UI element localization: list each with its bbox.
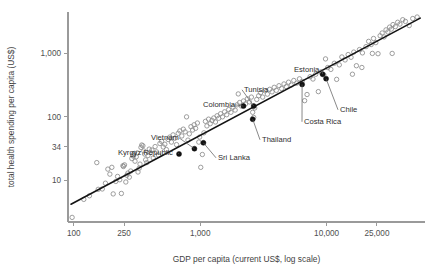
highlighted-point-vietnam	[192, 146, 197, 151]
annotation-label-costa-rica: Costa Rica	[304, 117, 342, 126]
data-point	[305, 92, 309, 96]
annotation-label-kyrgyz-republic: Kyrgyz Republic	[118, 148, 173, 157]
data-point	[316, 89, 320, 93]
highlighted-point-thailand	[250, 117, 255, 122]
annotation-label-tunisia: Tunisia	[244, 85, 269, 94]
data-point	[187, 132, 191, 136]
data-point	[371, 36, 375, 40]
data-point	[197, 140, 201, 144]
data-point	[350, 72, 354, 76]
data-point	[199, 165, 203, 169]
annotation-label-estonia: Estonia	[294, 65, 320, 74]
annotation-leader-chile	[326, 79, 338, 110]
data-point	[174, 142, 178, 146]
data-point	[110, 165, 114, 169]
data-point	[370, 51, 374, 55]
data-point	[138, 162, 142, 166]
y-tick-label-2: 34	[52, 143, 62, 152]
x-tick-label-4: 25,000	[364, 229, 389, 238]
y-tick-label-0: 1,000	[41, 49, 62, 58]
data-point	[354, 64, 358, 68]
y-tick-label-3: 10	[52, 176, 62, 185]
data-point	[143, 158, 147, 162]
annotation-leader-thailand	[253, 119, 260, 140]
data-point	[334, 77, 338, 81]
data-point	[302, 98, 306, 102]
y-axis-title: total health spending per capita (US$)	[6, 46, 16, 187]
data-point	[111, 192, 115, 196]
data-point	[108, 172, 112, 176]
annotation-label-vietnam: Vietnam	[151, 133, 179, 142]
data-point	[360, 65, 364, 69]
data-point	[203, 119, 207, 123]
chart-canvas: 1,00010034101002501,00010,00025,000 Kyrg…	[0, 0, 443, 279]
data-point	[180, 134, 184, 138]
annotation-label-thailand: Thailand	[262, 135, 291, 144]
data-point	[390, 51, 394, 55]
data-point	[279, 86, 283, 90]
data-point	[95, 160, 99, 164]
data-point	[260, 95, 264, 99]
highlighted-point-chile	[324, 76, 329, 81]
data-point	[249, 95, 253, 99]
scatter-chart: 1,00010034101002501,00010,00025,000 Kyrg…	[0, 0, 443, 279]
data-point	[337, 63, 341, 67]
data-point	[297, 77, 301, 81]
data-point	[133, 159, 137, 163]
annotation-leader-sri-lanka	[203, 143, 216, 158]
data-point	[124, 180, 128, 184]
annotation-label-chile: Chile	[340, 105, 357, 114]
data-point	[411, 16, 415, 20]
x-tick-label-1: 250	[117, 229, 131, 238]
y-tick-label-1: 100	[47, 113, 61, 122]
data-point	[277, 84, 281, 88]
annotation-label-sri-lanka: Sri Lanka	[218, 153, 251, 162]
x-axis-title: GDP per capita (current US$, log scale)	[173, 254, 321, 264]
data-point	[184, 115, 188, 119]
data-point	[323, 57, 327, 61]
x-tick-label-2: 1,000	[190, 229, 211, 238]
data-point	[236, 92, 240, 96]
annotation-label-colombia: Colombia	[203, 100, 236, 109]
data-point	[286, 80, 290, 84]
data-points-group	[70, 15, 419, 220]
regression-line	[71, 18, 420, 204]
x-tick-label-0: 100	[67, 229, 81, 238]
data-point	[376, 52, 380, 56]
trend-line	[71, 18, 420, 204]
data-point	[250, 110, 254, 114]
data-point	[311, 77, 315, 81]
data-point	[70, 215, 74, 219]
data-point	[119, 191, 123, 195]
x-tick-label-3: 10,000	[314, 229, 339, 238]
annotations-group: Kyrgyz RepublicVietnamSri LankaColombiaT…	[118, 65, 357, 162]
data-point	[360, 51, 364, 55]
data-point	[200, 152, 204, 156]
